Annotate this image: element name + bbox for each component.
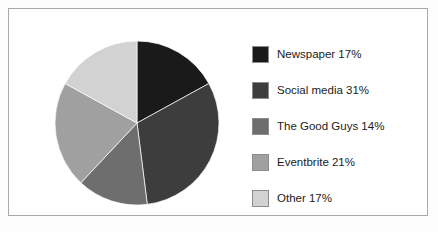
legend-item: Other 17% bbox=[252, 187, 427, 223]
legend-item: Social media 31% bbox=[252, 79, 427, 115]
pie-chart bbox=[55, 41, 219, 205]
legend-color-swatch bbox=[252, 82, 269, 99]
chart-legend: Newspaper 17%Social media 31%The Good Gu… bbox=[252, 43, 427, 223]
legend-item-label: Newspaper 17% bbox=[277, 43, 361, 65]
legend-item-label: The Good Guys 14% bbox=[277, 115, 384, 137]
legend-color-swatch bbox=[252, 46, 269, 63]
pie-slice-group bbox=[55, 41, 219, 205]
legend-item: Newspaper 17% bbox=[252, 43, 427, 79]
pie-chart-svg bbox=[55, 41, 219, 205]
legend-item: The Good Guys 14% bbox=[252, 115, 427, 151]
legend-item: Eventbrite 21% bbox=[252, 151, 427, 187]
legend-color-swatch bbox=[252, 154, 269, 171]
legend-item-label: Social media 31% bbox=[277, 79, 369, 101]
legend-item-label: Other 17% bbox=[277, 187, 332, 209]
legend-item-label: Eventbrite 21% bbox=[277, 151, 355, 173]
chart-frame: Newspaper 17%Social media 31%The Good Gu… bbox=[8, 8, 428, 216]
legend-color-swatch bbox=[252, 118, 269, 135]
chart-screenshot: Newspaper 17%Social media 31%The Good Gu… bbox=[0, 0, 438, 232]
legend-color-swatch bbox=[252, 190, 269, 207]
